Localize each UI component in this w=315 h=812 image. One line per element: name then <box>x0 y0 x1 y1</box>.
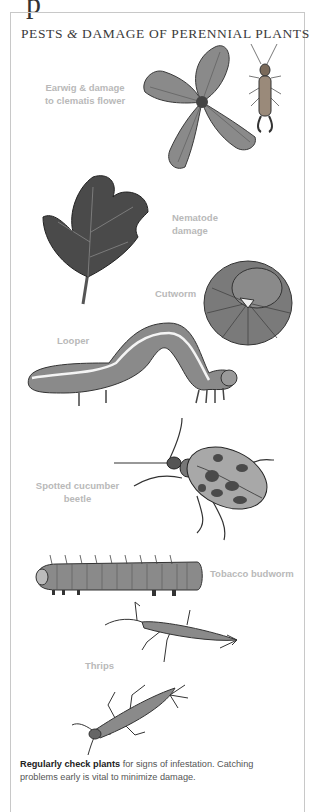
title-part1: PESTS <box>21 26 67 41</box>
label-earwig: Earwig & damage to clematis flower <box>40 82 130 107</box>
label-nematode: Nematode damage <box>172 212 218 237</box>
label-nematode-line2: damage <box>172 225 218 238</box>
label-earwig-line2: to clematis flower <box>40 95 130 108</box>
label-earwig-line1: Earwig & damage <box>40 82 130 95</box>
label-beetle-line2: beetle <box>35 493 120 506</box>
label-beetle: Spotted cucumber beetle <box>35 480 120 505</box>
spotted-cucumber-beetle-illustration <box>112 418 277 543</box>
label-beetle-line1: Spotted cucumber <box>35 480 120 493</box>
title-part2: DAMAGE OF PERENNIAL PLANTS <box>78 26 310 41</box>
thrips-illustration-1 <box>102 600 242 665</box>
nematode-leaf-illustration <box>38 172 163 307</box>
page-title: PESTS & DAMAGE OF PERENNIAL PLANTS <box>21 26 310 42</box>
tobacco-budworm-illustration <box>32 552 207 597</box>
label-thrips: Thrips <box>85 660 114 673</box>
caption-bold: Regularly check plants <box>20 759 120 769</box>
label-cutworm: Cutworm <box>155 288 196 301</box>
looper-illustration <box>24 318 239 413</box>
earwig-illustration <box>243 44 288 134</box>
label-nematode-line1: Nematode <box>172 212 218 225</box>
thrips-illustration-2 <box>70 680 190 755</box>
caption: Regularly check plants for signs of infe… <box>20 758 290 783</box>
title-amp: & <box>67 26 78 41</box>
label-budworm: Tobacco budworm <box>210 568 294 581</box>
